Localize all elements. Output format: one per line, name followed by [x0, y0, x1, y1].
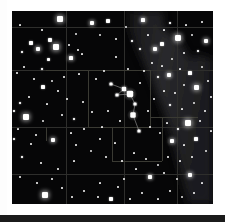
- sky-chart-plate: [12, 11, 213, 204]
- star-chart-page: [0, 0, 225, 222]
- sky-background: [12, 11, 213, 204]
- scan-left-margin: [0, 0, 7, 215]
- scan-bottom-strip: [0, 215, 225, 222]
